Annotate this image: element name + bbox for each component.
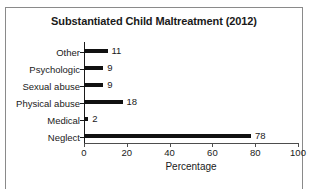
plot-area: 11 9 9 18 2 78 0 20 40 60 80 100 <box>84 42 298 143</box>
bar-other <box>84 49 108 53</box>
x-tick-label-0: 0 <box>81 148 86 158</box>
bar-neglect <box>84 134 251 138</box>
y-axis-label-physical-abuse: Physical abuse <box>0 99 80 109</box>
x-tick-label-100: 100 <box>290 148 306 158</box>
bar-value-other: 11 <box>112 46 122 56</box>
bar-value-physical-abuse: 18 <box>127 97 138 107</box>
y-axis-label-neglect: Neglect <box>0 133 80 143</box>
bar-value-medical: 2 <box>92 114 97 124</box>
x-axis-line <box>84 143 298 144</box>
bar-sexual-abuse <box>84 83 103 87</box>
bar-value-psychologic: 9 <box>107 63 112 73</box>
x-tick-label-80: 80 <box>250 148 261 158</box>
x-tick-label-60: 60 <box>207 148 218 158</box>
bar-value-neglect: 78 <box>255 131 266 141</box>
x-tick-label-20: 20 <box>122 148 133 158</box>
chart-title: Substantiated Child Maltreatment (2012) <box>5 15 303 27</box>
y-axis-label-psychologic: Psychologic <box>0 65 80 75</box>
bar-medical <box>84 117 88 121</box>
bar-value-sexual-abuse: 9 <box>107 80 112 90</box>
y-axis-line <box>84 42 85 143</box>
bar-psychologic <box>84 66 103 70</box>
y-axis-label-sexual-abuse: Sexual abuse <box>0 82 80 92</box>
y-axis-label-medical: Medical <box>0 116 80 126</box>
x-axis-title: Percentage <box>84 161 298 172</box>
chart-figure: Substantiated Child Maltreatment (2012) … <box>0 0 310 189</box>
y-axis-category-labels: Other Psychologic Sexual abuse Physical … <box>0 42 80 143</box>
x-tick-label-40: 40 <box>164 148 175 158</box>
bar-physical-abuse <box>84 100 123 104</box>
y-axis-label-other: Other <box>0 48 80 58</box>
